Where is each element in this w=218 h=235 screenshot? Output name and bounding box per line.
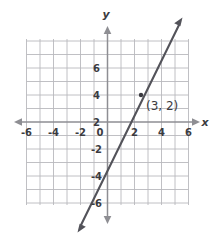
- line-arrow-upper-icon: [174, 18, 182, 27]
- x-axis-arrow-left-icon: [14, 118, 22, 126]
- y-axis-label: y: [102, 8, 110, 21]
- x-axis-tick-labels: -6 -4 -2 0 2 4 6: [21, 127, 192, 138]
- tick-label-x--4: -4: [48, 127, 59, 138]
- line-arrow-lower-icon: [78, 224, 86, 233]
- tick-label-origin: 0: [97, 127, 104, 138]
- tick-label-x--2: -2: [75, 127, 86, 138]
- tick-label-x-4: 4: [158, 127, 165, 138]
- tick-label-y--2: -2: [91, 144, 102, 155]
- tick-label-y--4: -4: [91, 171, 102, 182]
- point-marker-3-2: [139, 93, 143, 97]
- tick-label-x-2: 2: [131, 127, 138, 138]
- y-axis: [104, 26, 112, 224]
- tick-label-y-4: 4: [93, 90, 100, 101]
- tick-label-x-6: 6: [185, 127, 192, 138]
- x-axis-arrow-right-icon: [192, 118, 200, 126]
- tick-label-y-6: 6: [93, 63, 100, 74]
- coordinate-plane-svg: -6 -4 -2 0 2 4 6 6 4 2 -2 -4 -6 x y (3, …: [0, 0, 218, 235]
- point-annotation-label: (3, 2): [146, 99, 178, 113]
- tick-label-y-2: 2: [93, 117, 100, 128]
- graph-container: -6 -4 -2 0 2 4 6 6 4 2 -2 -4 -6 x y (3, …: [0, 0, 218, 235]
- x-axis-label: x: [200, 116, 209, 129]
- tick-label-y--6: -6: [91, 198, 102, 209]
- y-axis-arrow-down-icon: [104, 216, 112, 224]
- y-axis-arrow-up-icon: [104, 26, 112, 34]
- tick-label-x--6: -6: [21, 127, 32, 138]
